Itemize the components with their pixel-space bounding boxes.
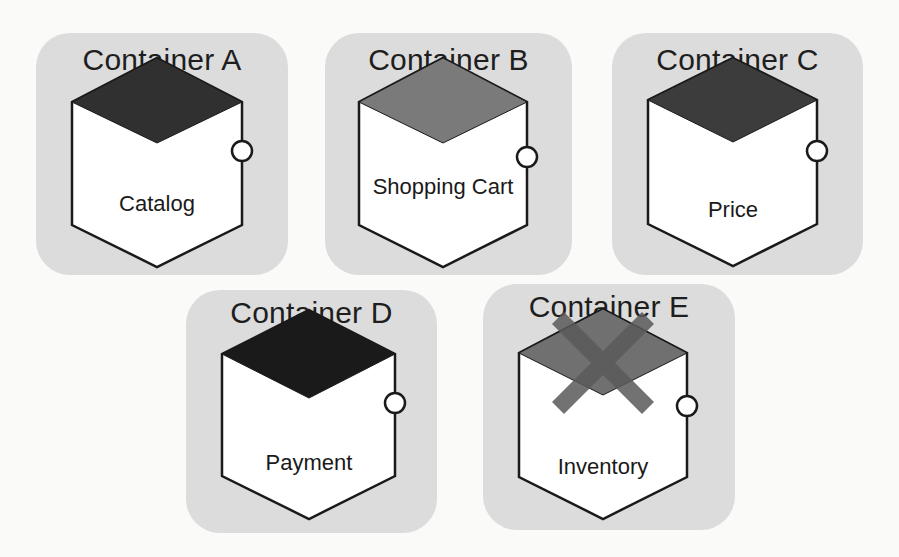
- circle-port-icon: [385, 393, 405, 413]
- service-label: Catalog: [72, 191, 242, 216]
- service-label: Payment: [224, 450, 394, 475]
- service-label: Shopping Cart: [358, 173, 528, 200]
- container-d: Container D Payment: [186, 290, 437, 533]
- container-b: Container B Shopping Cart: [325, 33, 572, 275]
- container-c: Container C Price: [612, 33, 863, 275]
- container-a: Container A Catalog: [36, 33, 288, 275]
- circle-port-icon: [677, 396, 697, 416]
- service-cube-icon: [483, 284, 735, 530]
- circle-port-icon: [517, 147, 537, 167]
- circle-port-icon: [232, 141, 252, 161]
- service-label: Inventory: [518, 454, 688, 479]
- service-cube-icon: [325, 33, 577, 275]
- service-cube-icon: [36, 33, 288, 275]
- service-label: Price: [648, 197, 818, 222]
- container-e: Container E Inventory: [483, 284, 735, 530]
- service-cube-icon: [612, 33, 864, 275]
- circle-port-icon: [807, 141, 827, 161]
- service-cube-icon: [186, 290, 438, 532]
